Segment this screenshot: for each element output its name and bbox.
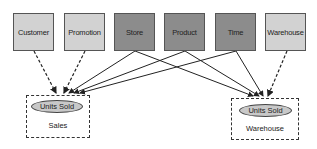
warehouse-to-warehouse-link (268, 51, 287, 96)
product-to-sales-link (74, 51, 185, 93)
dimension-label: Product (172, 28, 196, 37)
dimension-store: Store (114, 13, 155, 51)
measure-units-sold-sales: Units Sold (31, 100, 83, 113)
time-to-warehouse-link (236, 51, 263, 96)
fact-label-warehouse: Warehouse (231, 124, 299, 133)
measure-label: Units Sold (40, 102, 74, 111)
dimension-product: Product (164, 13, 205, 51)
time-to-sales-link (80, 51, 236, 93)
fact-label-sales: Sales (26, 121, 90, 130)
dimension-customer: Customer (13, 13, 54, 51)
dimension-label: Warehouse (267, 28, 303, 37)
promotion-to-sales-link (64, 51, 85, 93)
dimension-time: Time (215, 13, 256, 51)
dimension-label: Promotion (68, 28, 100, 37)
dimension-label: Store (126, 28, 143, 37)
measure-label: Units Sold (248, 106, 282, 115)
customer-to-sales-link (34, 51, 56, 93)
dimension-label: Customer (18, 28, 49, 37)
product-to-warehouse-link (185, 51, 259, 96)
dimension-label: Time (228, 28, 244, 37)
dimension-warehouse: Warehouse (265, 13, 306, 51)
measure-units-sold-warehouse: Units Sold (239, 104, 292, 117)
dimension-promotion: Promotion (64, 13, 105, 51)
